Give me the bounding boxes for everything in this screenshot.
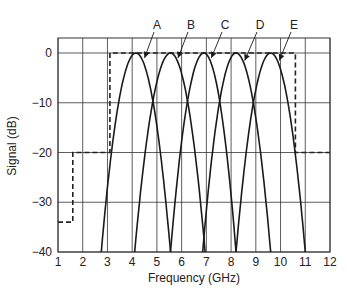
x-tick-label: 4 (129, 255, 136, 269)
x-tick-label: 1 (55, 255, 62, 269)
y-tick-label: −40 (32, 245, 53, 259)
y-tick-label: 0 (45, 46, 52, 60)
mask-path (58, 53, 330, 222)
uwb-channel-chart: ABCDE 123456789101112 0−10−20−30−40 Freq… (0, 0, 347, 297)
x-tick-label: 8 (228, 255, 235, 269)
x-tick-label: 7 (203, 255, 210, 269)
curve-label-d: D (256, 18, 265, 32)
curve-label-c: C (221, 18, 230, 32)
x-tick-label: 10 (274, 255, 288, 269)
x-axis-ticks: 123456789101112 (55, 255, 337, 269)
curve-label-a: A (153, 18, 161, 32)
y-tick-label: −10 (32, 96, 53, 110)
x-tick-label: 2 (79, 255, 86, 269)
x-tick-label: 12 (323, 255, 337, 269)
curve-label-e: E (290, 18, 298, 32)
x-tick-label: 9 (252, 255, 259, 269)
spectral-mask-line (58, 53, 330, 222)
x-tick-label: 5 (154, 255, 161, 269)
y-axis-ticks: 0−10−20−30−40 (32, 46, 53, 259)
x-tick-label: 6 (178, 255, 185, 269)
y-tick-label: −30 (32, 195, 53, 209)
x-axis-label: Frequency (GHz) (148, 271, 240, 285)
y-tick-label: −20 (32, 146, 53, 160)
x-tick-label: 11 (299, 255, 312, 269)
y-axis-label: Signal (dB) (5, 116, 19, 175)
x-tick-label: 3 (104, 255, 111, 269)
curve-label-b: B (187, 18, 195, 32)
